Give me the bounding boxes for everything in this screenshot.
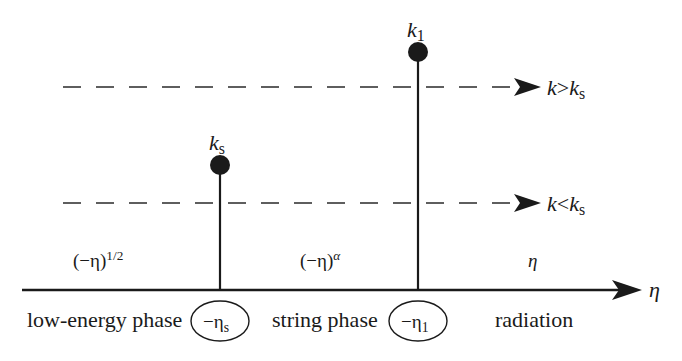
time-label-eta-s: −ηs [203, 312, 229, 335]
mode-line-k-less [63, 194, 541, 212]
scaling-low-energy: (−η)1/2 [73, 249, 123, 270]
scaling-string: (−η)α [300, 249, 340, 270]
time-label-eta-1: −η1 [401, 312, 429, 335]
label-k1: k1 [407, 19, 425, 44]
label-k-less-ks: k<ks [547, 193, 585, 218]
k1-dot-icon [408, 42, 428, 62]
time-axis [22, 280, 642, 300]
phase-string: string phase [272, 309, 378, 331]
mode-line-k-greater [63, 78, 541, 96]
scaling-radiation: η [528, 251, 537, 270]
ks-dot-icon [210, 155, 230, 175]
phase-low-energy: low-energy phase [27, 309, 182, 331]
axis-label-eta: η [649, 279, 660, 301]
label-ks: ks [209, 132, 225, 157]
arrowhead-icon [514, 78, 541, 96]
phase-radiation: radiation [495, 309, 573, 331]
arrowhead-icon [514, 194, 541, 212]
marker-k1 [408, 42, 428, 290]
marker-ks [210, 155, 230, 290]
label-k-greater-ks: k>ks [547, 77, 585, 102]
